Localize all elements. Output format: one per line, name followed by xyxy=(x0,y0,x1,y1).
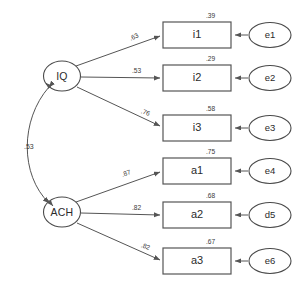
indicator-label-i1: i1 xyxy=(163,29,231,40)
latent-factor-ach-label: ACH xyxy=(42,207,82,218)
indicator-label-a2: a2 xyxy=(163,209,231,220)
loading-path-ach-a3 xyxy=(77,223,160,260)
variance-value-i1: .39 xyxy=(206,13,215,20)
variance-value-a2: .68 xyxy=(206,193,215,200)
indicator-label-a1: a1 xyxy=(163,165,231,176)
error-label-e1: e1 xyxy=(250,30,290,40)
variance-value-a3: .67 xyxy=(206,239,215,246)
indicator-label-a3: a3 xyxy=(163,255,231,266)
sem-path-diagram: IQ ACH i1 i2 i3 a1 a2 a3 e1 e2 e3 e4 d5 … xyxy=(0,0,300,292)
loading-path-iq-i3 xyxy=(77,87,160,126)
error-label-e4: e4 xyxy=(250,166,290,176)
error-label-e3: e3 xyxy=(250,123,290,133)
indicator-label-i2: i2 xyxy=(163,72,231,83)
error-label-e2: e2 xyxy=(250,73,290,83)
error-label-e6: e6 xyxy=(250,256,290,266)
diagram-canvas xyxy=(0,0,300,292)
indicator-label-i3: i3 xyxy=(163,122,231,133)
loading-path-ach-a1 xyxy=(76,172,160,202)
variance-value-i3: .58 xyxy=(206,106,215,113)
variance-value-a1: .75 xyxy=(206,149,215,156)
loading-value-iq-i2: .53 xyxy=(132,68,141,75)
correlation-value-iq-ach: .53 xyxy=(24,143,34,150)
loading-value-ach-a2: .82 xyxy=(132,205,141,212)
loading-path-ach-a2 xyxy=(81,213,160,215)
loading-path-iq-i1 xyxy=(76,36,160,66)
latent-factor-iq-label: IQ xyxy=(44,71,80,82)
error-label-d5: d5 xyxy=(250,210,290,220)
variance-value-i2: .29 xyxy=(206,56,215,63)
loading-path-iq-i2 xyxy=(81,77,160,78)
